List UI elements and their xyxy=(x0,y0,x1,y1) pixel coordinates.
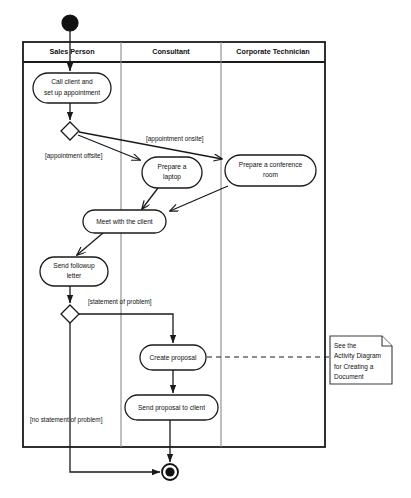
final-node-inner-dot xyxy=(165,467,174,476)
edge-prepare-conference-room-to-meet xyxy=(170,186,228,211)
swimlane-title-sales-person: Sales Person xyxy=(49,47,94,56)
activity-prepare-laptop[interactable]: Prepare a laptop xyxy=(142,157,202,188)
activity-send-proposal-to-client[interactable]: Send proposal to client xyxy=(125,395,218,420)
activity-create-proposal[interactable]: Create proposal xyxy=(140,345,206,370)
activity-call-client[interactable]: Call client and set up appointment xyxy=(33,73,111,103)
swimlane-title-corporate-technician: Corporate Technician xyxy=(236,47,309,56)
note-see-activity-diagram[interactable]: See the Activity Diagram for Creating a … xyxy=(330,336,392,384)
activity-call-client-label-line2: set up appointment xyxy=(44,89,100,97)
activity-meet-with-client[interactable]: Meet with the client xyxy=(83,210,166,233)
guard-no-statement-of-problem: [no statement of problem] xyxy=(30,416,103,424)
guard-appointment-offsite: [appointment offsite] xyxy=(45,152,103,160)
activity-send-proposal-to-client-label: Send proposal to client xyxy=(138,404,205,412)
decision-problem-statement[interactable] xyxy=(61,305,79,323)
uml-activity-diagram: Sales Person Consultant Corporate Techni… xyxy=(0,0,411,498)
activity-prepare-conference-room[interactable]: Prepare a conference room xyxy=(225,155,316,186)
activity-send-followup-letter-label-line2: letter xyxy=(67,272,82,279)
activity-diagram-canvas: Sales Person Consultant Corporate Techni… xyxy=(0,0,411,498)
swimlane-title-consultant: Consultant xyxy=(152,47,190,56)
edge-prepare-laptop-to-meet xyxy=(142,188,158,209)
activity-meet-with-client-label: Meet with the client xyxy=(96,218,153,225)
guard-appointment-onsite: [appointment onsite] xyxy=(146,135,204,143)
note-text-line1: See the xyxy=(334,342,357,349)
initial-node[interactable] xyxy=(62,15,78,31)
guard-statement-of-problem: [statement of problem] xyxy=(88,298,152,306)
activity-create-proposal-label: Create proposal xyxy=(150,354,197,362)
note-text-line3: for Creating a xyxy=(334,363,374,371)
activity-prepare-laptop-label-line2: laptop xyxy=(163,173,181,181)
activity-prepare-conference-room-label-line2: room xyxy=(263,171,279,178)
final-node[interactable] xyxy=(162,464,178,480)
edge-decision-to-create-proposal xyxy=(79,314,173,343)
note-fold-corner xyxy=(382,336,392,346)
activity-send-followup-letter[interactable]: Send followup letter xyxy=(40,257,108,286)
activity-call-client-label-line1: Call client and xyxy=(51,78,93,85)
activity-send-followup-letter-label-line1: Send followup xyxy=(53,262,95,270)
activity-prepare-conference-room-label-line1: Prepare a conference xyxy=(239,161,303,169)
edge-meet-to-send-followup xyxy=(77,233,103,255)
decision-appointment-location[interactable] xyxy=(61,122,79,140)
note-text-line4: Document xyxy=(334,373,364,380)
activity-prepare-laptop-label-line1: Prepare a xyxy=(158,163,187,171)
note-text-line2: Activity Diagram xyxy=(334,352,381,360)
